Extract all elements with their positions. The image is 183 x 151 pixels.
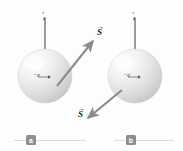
panel-a-z-axis-label: z [43,15,45,21]
figure-canvas: ↑ z −e → S ↑ z −e → S a b [0,0,183,151]
panel-b-spin-vector [88,90,122,118]
panel-b-z-axis-label: z [133,15,135,21]
panel-b-rule [114,140,174,141]
panel-b-charge-label: −e [123,72,130,79]
panel-a-tag: a [26,135,36,145]
panel-a-charge-label: −e [33,72,40,79]
panel-a-spin-label: S [97,27,102,37]
panel-b-spin-label: S [78,109,83,119]
panel-b-tag: b [126,135,136,145]
panel-b-spin-label-group: → S [78,107,85,119]
panel-a-rule [14,140,86,141]
physics-diagram-svg [0,0,183,151]
panel-a-spin-label-group: → S [97,25,104,37]
